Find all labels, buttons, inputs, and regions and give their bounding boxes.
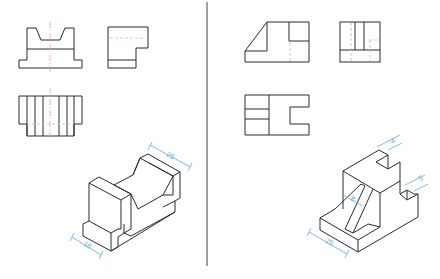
left-front-view — [19, 22, 82, 74]
dim-label-5: 5 — [417, 174, 424, 182]
drawing-canvas: 25 18 — [0, 0, 440, 279]
dim-label-18: 18 — [83, 240, 93, 250]
right-side-view — [340, 22, 380, 62]
left-isometric-view: 25 18 — [70, 142, 192, 259]
dim-line-4 — [377, 135, 400, 147]
right-front-view — [245, 22, 309, 62]
left-top-view — [19, 88, 82, 140]
dim-label-25-right: 25 — [325, 237, 335, 247]
right-isometric-view: 4 5 8 25 — [307, 135, 428, 258]
left-side-view — [108, 27, 148, 68]
dim-label-25: 25 — [166, 151, 176, 161]
right-top-view — [245, 95, 309, 135]
